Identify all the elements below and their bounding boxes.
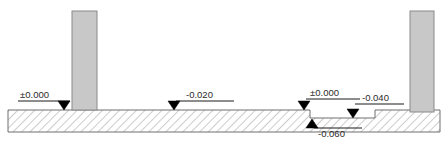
elevation-label: -0.060 xyxy=(318,128,345,139)
level-marker-level-0-step: ±0.000 xyxy=(298,87,360,110)
level-triangle-icon xyxy=(168,101,180,110)
level-triangle-icon xyxy=(347,109,359,118)
drawing-canvas: ±0.000-0.020±0.000-0.040-0.060 xyxy=(0,0,448,150)
level-marker-level-0-left: ±0.000 xyxy=(18,89,70,110)
ground-slab-group xyxy=(8,110,440,132)
elevation-label: -0.040 xyxy=(362,92,389,103)
level-marker-level-minus-020: -0.020 xyxy=(168,89,234,110)
left-column xyxy=(72,11,97,110)
level-section-drawing: ±0.000-0.020±0.000-0.040-0.060 xyxy=(0,0,448,150)
level-triangle-icon xyxy=(58,101,70,110)
right-column xyxy=(410,11,434,112)
elevation-label: ±0.000 xyxy=(310,87,339,98)
level-triangle-icon xyxy=(298,101,310,110)
elevation-label: -0.020 xyxy=(186,89,213,100)
elevation-label: ±0.000 xyxy=(20,89,49,100)
